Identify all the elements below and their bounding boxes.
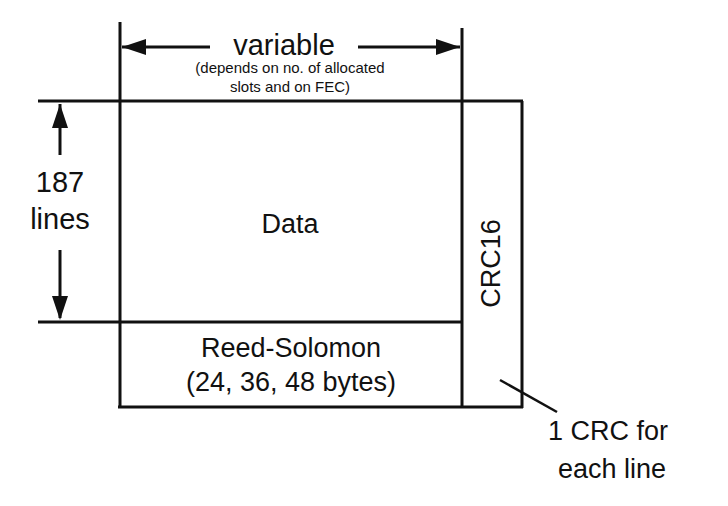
- rs-block-bytes: (24, 36, 48 bytes): [130, 367, 452, 398]
- crc-note-line2: each line: [558, 454, 728, 485]
- width-label: variable: [211, 29, 357, 62]
- height-label-number: 187: [15, 166, 105, 199]
- crc-note-line1: 1 CRC for: [548, 416, 728, 447]
- arrowhead-down-icon: [52, 296, 68, 320]
- width-note-line2: slots and on FEC): [170, 78, 410, 95]
- data-block-label: Data: [230, 209, 350, 240]
- width-note-line1: (depends on no. of allocated: [170, 59, 410, 76]
- arrowhead-up-icon: [52, 104, 68, 128]
- height-label-unit: lines: [15, 203, 105, 236]
- arrowhead-left-icon: [122, 39, 146, 55]
- rs-block-label: Reed-Solomon: [130, 333, 452, 364]
- arrowhead-right-icon: [436, 39, 460, 55]
- crc-block-label: CRC16: [476, 204, 507, 324]
